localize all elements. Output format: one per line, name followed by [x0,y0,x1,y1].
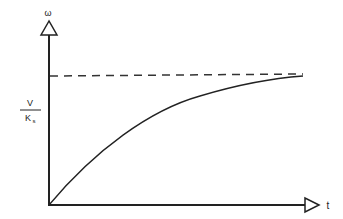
y-axis-arrow-icon [41,21,57,35]
y-axis-label: ω [44,8,51,18]
step-response-diagram: ω t V K s [0,0,343,219]
x-axis-label: t [327,200,330,211]
asymptote-numerator: V [27,98,33,108]
asymptote-denominator: K [25,113,31,123]
response-curve [49,76,303,205]
x-axis-arrow-icon [305,198,319,212]
asymptote-subscript: s [33,118,36,124]
asymptote-line [50,74,303,76]
